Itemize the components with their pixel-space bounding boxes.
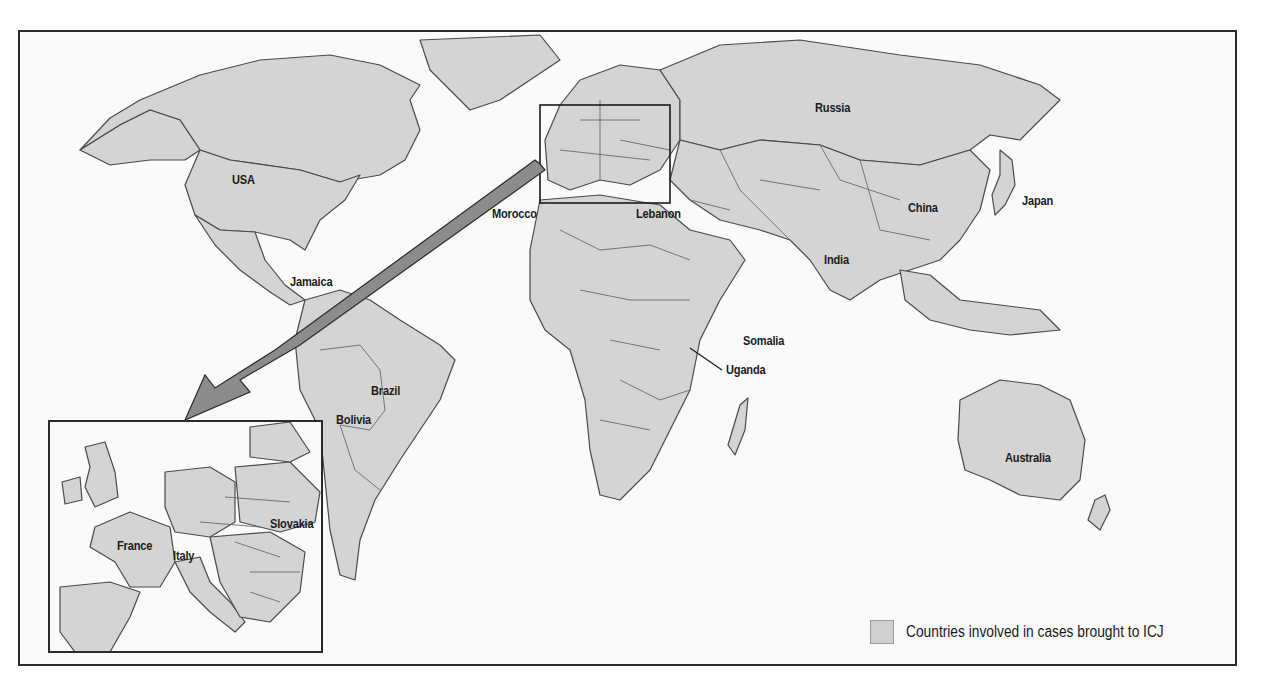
japan: [992, 150, 1015, 215]
scandinavia-baltic: [250, 422, 310, 462]
label-china: China: [908, 200, 938, 215]
uk: [85, 442, 118, 507]
europe: [545, 65, 680, 190]
madagascar: [728, 398, 748, 455]
ireland: [62, 477, 82, 504]
label-russia: Russia: [815, 100, 850, 115]
germany-central: [165, 467, 235, 537]
inset-label-italy: Italy: [173, 548, 194, 563]
inset-label-slovakia: Slovakia: [270, 516, 313, 531]
label-morocco: Morocco: [492, 206, 537, 221]
label-jamaica: Jamaica: [290, 274, 332, 289]
australia: [958, 380, 1085, 500]
label-bolivia: Bolivia: [336, 412, 371, 427]
inset-label-france: France: [117, 538, 152, 553]
europe-inset: [48, 420, 323, 653]
label-japan: Japan: [1022, 193, 1053, 208]
label-lebanon: Lebanon: [636, 206, 681, 221]
label-india: India: [824, 252, 849, 267]
label-usa: USA: [232, 172, 255, 187]
spain-portugal: [60, 582, 140, 652]
greenland: [420, 35, 560, 110]
new-zealand: [1088, 495, 1110, 530]
legend: Countries involved in cases brought to I…: [870, 620, 1206, 644]
label-australia: Australia: [1005, 450, 1051, 465]
africa: [530, 195, 745, 500]
legend-swatch: [870, 620, 894, 644]
label-brazil: Brazil: [371, 383, 400, 398]
southeast-asia: [900, 270, 1060, 335]
europe-inset-map: [50, 422, 323, 653]
label-uganda: Uganda: [726, 362, 766, 377]
label-somalia: Somalia: [743, 333, 784, 348]
legend-label: Countries involved in cases brought to I…: [906, 623, 1164, 641]
russia: [660, 40, 1060, 165]
